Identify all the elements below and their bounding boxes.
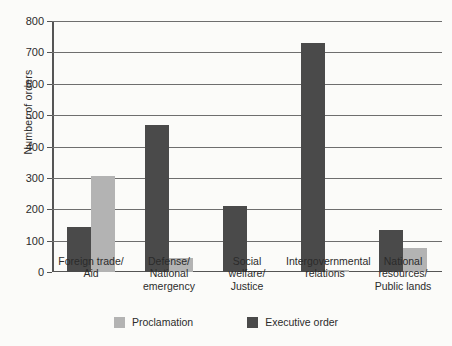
bar-chart: Number of orders 01002003004005006007008… <box>0 0 452 346</box>
legend-item: Proclamation <box>114 316 193 328</box>
legend-item: Executive order <box>247 316 338 328</box>
category-label: Social welfare/ Justice <box>208 255 286 292</box>
y-tick-label-400: 400 <box>26 141 44 152</box>
y-tick-label-500: 500 <box>26 110 44 121</box>
plot-area: 0100200300400500600700800 <box>52 21 442 272</box>
chart-legend: ProclamationExecutive order <box>0 316 452 328</box>
bar-executive-order <box>145 125 169 272</box>
tick-mark-100 <box>47 241 52 242</box>
bar-group <box>67 21 115 272</box>
y-tick-label-200: 200 <box>26 204 44 215</box>
bar-group <box>145 21 193 272</box>
bar-group <box>301 21 349 272</box>
y-tick-label-600: 600 <box>26 78 44 89</box>
tick-mark-400 <box>47 147 52 148</box>
tick-mark-300 <box>47 178 52 179</box>
legend-label: Executive order <box>265 316 338 328</box>
category-label: Intergovernmental relations <box>286 255 364 280</box>
y-tick-label-100: 100 <box>26 235 44 246</box>
tick-mark-800 <box>47 21 52 22</box>
tick-mark-600 <box>47 84 52 85</box>
legend-swatch-icon <box>114 317 125 328</box>
legend-swatch-icon <box>247 317 258 328</box>
bar-group <box>379 21 427 272</box>
category-label: National resources/ Public lands <box>364 255 442 292</box>
y-tick-label-0: 0 <box>38 267 44 278</box>
tick-mark-700 <box>47 52 52 53</box>
category-label: Foreign trade/ Aid <box>52 255 130 280</box>
bar-executive-order <box>301 43 325 272</box>
bar-group <box>223 21 271 272</box>
y-tick-label-700: 700 <box>26 47 44 58</box>
tick-mark-200 <box>47 209 52 210</box>
category-label: Defense/ National emergency <box>130 255 208 292</box>
y-tick-label-800: 800 <box>26 16 44 27</box>
tick-mark-500 <box>47 115 52 116</box>
y-tick-label-300: 300 <box>26 172 44 183</box>
legend-label: Proclamation <box>132 316 193 328</box>
